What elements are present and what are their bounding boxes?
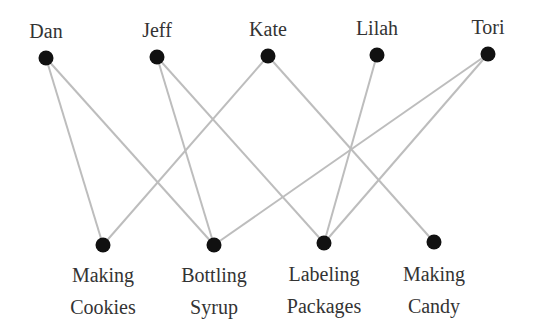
task-label-labeling-packages: Labeling Packages <box>287 258 361 322</box>
task-label-bottling-syrup: Bottling Syrup <box>181 259 247 323</box>
edge-kate-making-cookies <box>103 56 268 245</box>
task-label-line: Candy <box>403 290 465 322</box>
node-making-cookies <box>96 238 111 253</box>
node-kate <box>261 49 276 64</box>
task-label-line: Syrup <box>181 291 247 323</box>
node-lilah <box>370 48 385 63</box>
edge-tori-labeling-packages <box>324 54 488 243</box>
edge-layer <box>46 54 488 245</box>
task-label-making-cookies: Making Cookies <box>70 259 136 323</box>
task-label-line: Making <box>70 259 136 291</box>
edge-dan-bottling-syrup <box>46 58 214 245</box>
task-label-line: Labeling <box>287 258 361 290</box>
task-label-line: Packages <box>287 290 361 322</box>
edge-jeff-labeling-packages <box>157 57 324 243</box>
person-label-kate: Kate <box>249 16 287 42</box>
node-dan <box>39 51 54 66</box>
node-layer <box>39 47 496 253</box>
node-labeling-packages <box>317 236 332 251</box>
task-label-line: Bottling <box>181 259 247 291</box>
node-making-candy <box>427 235 442 250</box>
person-label-jeff: Jeff <box>142 17 172 43</box>
task-label-line: Cookies <box>70 291 136 323</box>
edge-dan-making-cookies <box>46 58 103 245</box>
person-label-lilah: Lilah <box>356 15 398 41</box>
edge-tori-bottling-syrup <box>214 54 488 245</box>
task-label-making-candy: Making Candy <box>403 258 465 322</box>
task-label-line: Making <box>403 258 465 290</box>
person-label-dan: Dan <box>29 18 62 44</box>
node-bottling-syrup <box>207 238 222 253</box>
node-tori <box>481 47 496 62</box>
person-label-tori: Tori <box>471 14 504 40</box>
node-jeff <box>150 50 165 65</box>
